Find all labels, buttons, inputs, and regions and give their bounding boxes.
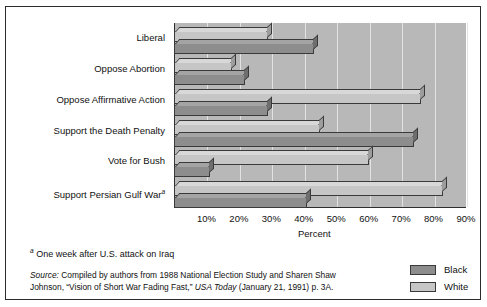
footnote-text: One week after U.S. attack on Iraq — [36, 249, 174, 259]
bar-top-face — [175, 132, 418, 137]
bar-top-face — [175, 39, 317, 44]
source-line-2b: (January 21, 1991) p. 3A. — [237, 282, 334, 292]
x-tick-label-60: 60% — [353, 213, 385, 224]
x-tick-label-40: 40% — [288, 213, 320, 224]
bar-top-face — [175, 101, 272, 106]
legend-swatch-white — [410, 282, 436, 292]
x-tick-label-50: 50% — [320, 213, 352, 224]
bar-top-face — [175, 150, 372, 155]
x-axis-title: Percent — [298, 228, 331, 239]
bar-top-face — [175, 193, 311, 198]
figure-border: LiberalOppose AbortionOppose Affirmative… — [5, 6, 481, 300]
category-label-5: Support Persian Gulf Wara — [53, 187, 165, 200]
x-tick-label-70: 70% — [385, 213, 417, 224]
bar-top-face — [175, 181, 447, 186]
gridline-70 — [402, 23, 403, 207]
category-label-0: Liberal — [136, 33, 165, 43]
source-publication: USA Today — [195, 282, 237, 292]
gridline-90 — [467, 23, 468, 207]
bar-black-2 — [174, 105, 268, 116]
x-tick-label-10: 10% — [190, 213, 222, 224]
footnote: a One week after U.S. attack on Iraq — [30, 247, 174, 259]
bar-top-face — [175, 120, 324, 125]
legend-label-black: Black — [444, 264, 467, 275]
x-tick-label-20: 20% — [223, 213, 255, 224]
legend-label-white: White — [444, 281, 468, 292]
bar-top-face — [175, 70, 249, 75]
chart-figure: LiberalOppose AbortionOppose Affirmative… — [0, 0, 487, 307]
bar-top-face — [175, 162, 213, 167]
category-label-1: Oppose Abortion — [94, 64, 165, 74]
bar-black-1 — [174, 74, 245, 85]
category-footnote-marker: a — [161, 188, 165, 195]
footnote-marker: a — [30, 247, 34, 254]
bar-black-0 — [174, 43, 314, 54]
bar-black-3 — [174, 136, 414, 147]
source-line-1: Compiled by authors from 1988 National E… — [59, 270, 336, 280]
gridline-60 — [370, 23, 371, 207]
category-label-2: Oppose Affirmative Action — [56, 95, 165, 105]
x-tick-label-80: 80% — [418, 213, 450, 224]
source-label: Source: — [30, 270, 59, 280]
category-label-3: Support the Death Penalty — [54, 126, 165, 136]
category-label-4: Vote for Bush — [108, 156, 165, 166]
gridline-80 — [435, 23, 436, 207]
bar-top-face — [175, 58, 236, 63]
source-note: Source: Compiled by authors from 1988 Na… — [30, 270, 360, 293]
bar-black-4 — [174, 166, 210, 177]
bar-top-face — [175, 27, 272, 32]
bar-black-5 — [174, 197, 307, 208]
source-line-2a: Johnson, “Vision of Short War Fading Fas… — [30, 282, 195, 292]
gridline-50 — [337, 23, 338, 207]
bar-top-face — [175, 89, 424, 94]
x-tick-label-30: 30% — [255, 213, 287, 224]
x-tick-label-90: 90% — [450, 213, 482, 224]
legend-swatch-black — [410, 265, 436, 275]
